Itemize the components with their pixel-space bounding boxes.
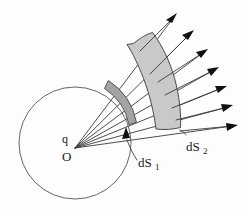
diagram-canvas: q O dS 1 dS 2 [0, 0, 248, 215]
origin-label-O: O [62, 149, 71, 164]
far-surface-label-base: dS [186, 139, 200, 154]
near-surface-label-base: dS [138, 155, 152, 170]
physics-diagram-figure: q O dS 1 dS 2 [0, 0, 248, 215]
far-surface-label-subscript: 2 [203, 146, 208, 156]
near-surface-label-subscript: 1 [155, 162, 160, 172]
charge-label-q: q [62, 132, 68, 146]
